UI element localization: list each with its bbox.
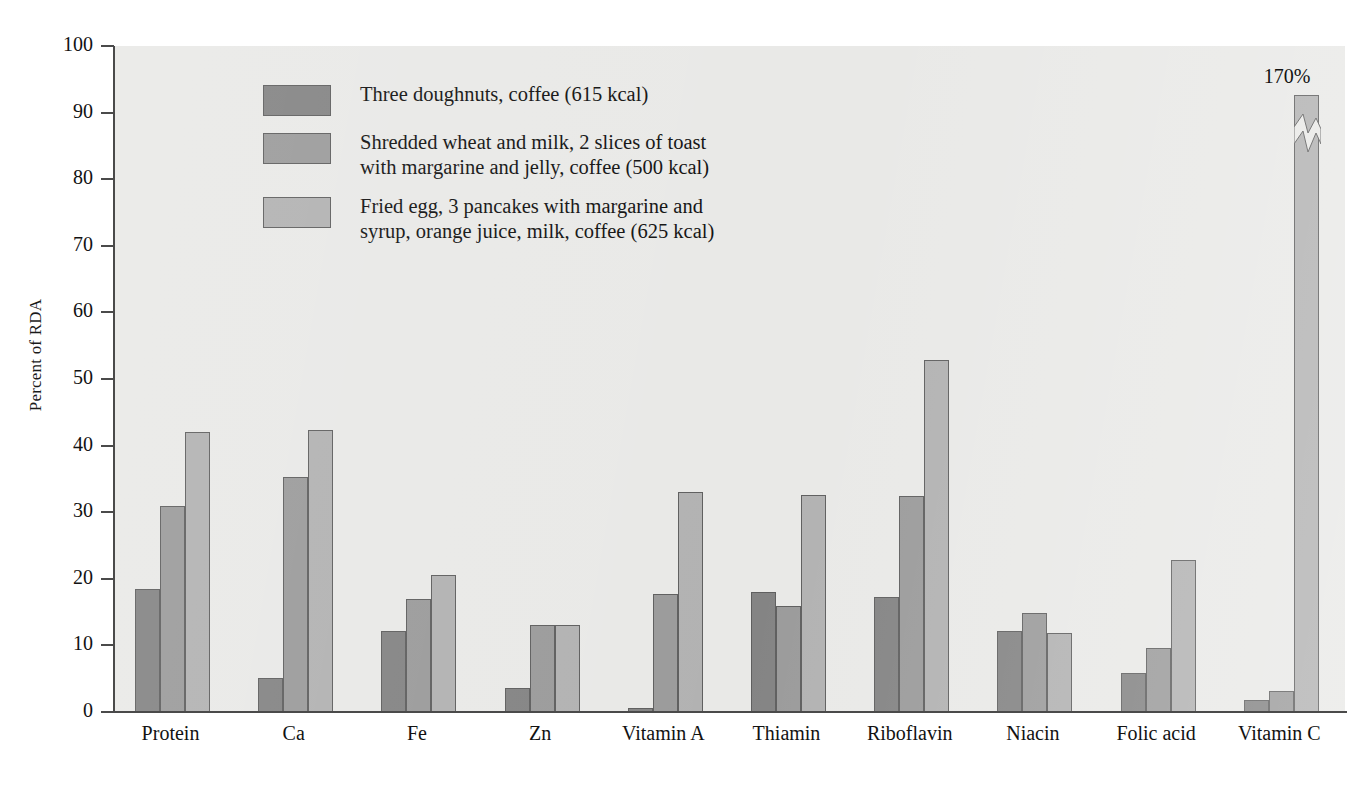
x-axis-label-vitamin-c: Vitamin C xyxy=(1199,722,1359,745)
plot-area: Three doughnuts, coffee (615 kcal)Shredd… xyxy=(113,46,1345,712)
bar xyxy=(160,506,185,712)
bar-group-riboflavin xyxy=(874,46,949,712)
bar xyxy=(431,575,456,712)
bar xyxy=(530,625,555,712)
y-tick-label: 100 xyxy=(23,34,93,54)
y-tick-label: 30 xyxy=(23,500,93,520)
bar-group-vitamin-c xyxy=(1244,46,1319,712)
bar xyxy=(1121,673,1146,712)
bar xyxy=(1269,691,1294,712)
x-axis-line xyxy=(113,711,1347,713)
vitamin-c-value-annotation: 170% xyxy=(1264,65,1311,88)
bar-group-ca xyxy=(258,46,333,712)
bar xyxy=(1047,633,1072,712)
bar xyxy=(678,492,703,712)
bar xyxy=(135,589,160,712)
bar-group-fe xyxy=(381,46,456,712)
bar xyxy=(751,592,776,712)
y-tick-label: 80 xyxy=(23,167,93,187)
y-tick-label: 50 xyxy=(23,367,93,387)
bar xyxy=(653,594,678,712)
y-tick-label: 90 xyxy=(23,101,93,121)
bar-group-zn xyxy=(505,46,580,712)
bar xyxy=(406,599,431,712)
bar-chart-figure: Percent of RDA 0102030405060708090100 Th… xyxy=(0,0,1369,790)
bar xyxy=(505,688,530,712)
bar xyxy=(1146,648,1171,712)
y-tick-label: 20 xyxy=(23,567,93,587)
y-tick-label: 10 xyxy=(23,633,93,653)
bar xyxy=(555,625,580,712)
bar xyxy=(308,430,333,712)
bar xyxy=(1022,613,1047,712)
bar xyxy=(381,631,406,712)
bar-group-vitamin-a xyxy=(628,46,703,712)
bar-group-niacin xyxy=(997,46,1072,712)
bar xyxy=(1171,560,1196,713)
bar xyxy=(924,360,949,712)
bar-group-thiamin xyxy=(751,46,826,712)
bar-group-protein xyxy=(135,46,210,712)
bar xyxy=(283,477,308,712)
bar xyxy=(258,678,283,712)
bar-group-folic-acid xyxy=(1121,46,1196,712)
y-tick-label: 0 xyxy=(23,700,93,720)
bar xyxy=(1294,95,1319,712)
y-axis-title: Percent of RDA xyxy=(26,275,46,435)
y-tick-label: 70 xyxy=(23,234,93,254)
bar xyxy=(801,495,826,712)
bar xyxy=(185,432,210,712)
y-tick-label: 40 xyxy=(23,434,93,454)
bar xyxy=(874,597,899,712)
axis-break-zigzag xyxy=(1294,111,1319,157)
bar xyxy=(997,631,1022,712)
bar xyxy=(776,606,801,712)
y-tick-label: 60 xyxy=(23,300,93,320)
bar xyxy=(899,496,924,712)
